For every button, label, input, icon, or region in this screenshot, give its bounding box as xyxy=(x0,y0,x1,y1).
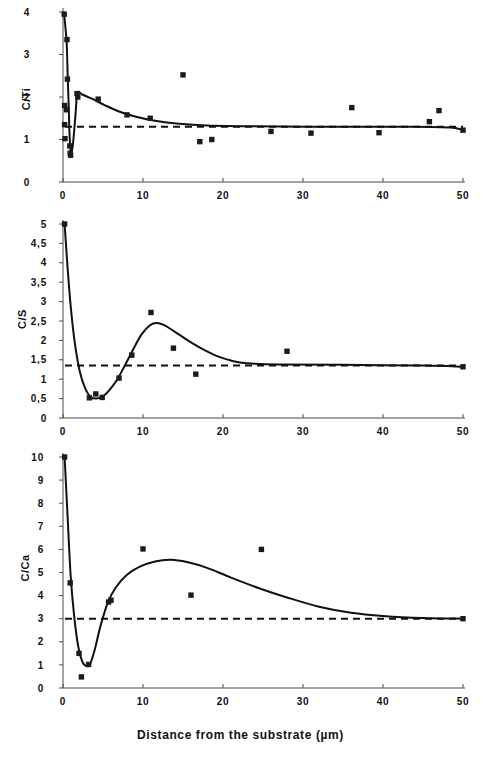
x-tick-label: 40 xyxy=(377,426,390,437)
data-point-marker xyxy=(460,616,465,621)
y-axis-title: C/Ca xyxy=(19,554,31,581)
data-point-marker xyxy=(171,345,176,350)
data-point-marker xyxy=(188,592,193,597)
data-point-marker xyxy=(62,454,67,459)
y-tick-label: 3 xyxy=(24,49,30,60)
data-point-marker xyxy=(197,139,202,144)
y-tick-label: 4 xyxy=(41,257,47,268)
chart-panel-c-ti: 0123401020304050C/Ti xyxy=(0,0,481,215)
x-tick-label: 40 xyxy=(377,696,390,707)
x-tick-label: 20 xyxy=(217,696,230,707)
x-tick-label: 10 xyxy=(137,696,150,707)
data-point-marker xyxy=(62,136,67,141)
y-tick-label: 3 xyxy=(38,613,44,624)
fit-curve xyxy=(64,13,463,153)
y-tick-label: 2 xyxy=(38,636,44,647)
y-tick-label: 5 xyxy=(38,567,44,578)
data-point-marker xyxy=(75,94,80,99)
y-tick-label: 7 xyxy=(38,521,44,532)
y-tick-label: 1 xyxy=(41,374,47,385)
y-tick-label: 0 xyxy=(41,413,47,424)
y-axis-title: C/S xyxy=(16,309,28,329)
y-tick-label: 9 xyxy=(38,475,44,486)
data-point-marker xyxy=(140,546,145,551)
y-tick-label: 6 xyxy=(38,544,44,555)
data-point-marker xyxy=(68,580,73,585)
x-axis-caption: Distance from the substrate (µm) xyxy=(0,728,481,742)
x-tick-label: 10 xyxy=(137,190,150,201)
y-tick-label: 4,5 xyxy=(31,238,47,249)
data-point-marker xyxy=(93,391,98,396)
data-point-marker xyxy=(108,598,113,603)
data-point-marker xyxy=(96,96,101,101)
data-point-marker xyxy=(376,130,381,135)
data-point-marker xyxy=(67,143,72,148)
y-tick-label: 1 xyxy=(24,134,30,145)
chart-svg-c-s: 00,511,522,533,544,5501020304050C/S xyxy=(0,215,481,443)
data-point-marker xyxy=(86,662,91,667)
x-tick-label: 50 xyxy=(457,190,470,201)
data-point-marker xyxy=(308,130,313,135)
data-point-marker xyxy=(427,119,432,124)
data-point-marker xyxy=(65,76,70,81)
x-tick-label: 0 xyxy=(60,426,66,437)
y-tick-label: 0 xyxy=(38,683,44,694)
data-point-marker xyxy=(209,137,214,142)
data-point-marker xyxy=(64,107,69,112)
y-tick-label: 5 xyxy=(41,219,47,230)
data-point-marker xyxy=(284,349,289,354)
y-tick-label: 2,5 xyxy=(31,316,47,327)
data-point-marker xyxy=(62,221,67,226)
fit-curve xyxy=(65,457,463,666)
data-point-marker xyxy=(148,116,153,121)
x-tick-label: 20 xyxy=(217,190,230,201)
x-tick-label: 30 xyxy=(297,190,310,201)
data-point-marker xyxy=(349,105,354,110)
x-tick-label: 40 xyxy=(377,190,390,201)
x-tick-label: 10 xyxy=(137,426,150,437)
y-tick-label: 3,5 xyxy=(31,277,47,288)
y-tick-label: 0,5 xyxy=(31,393,47,404)
y-tick-label: 4 xyxy=(38,590,44,601)
data-point-marker xyxy=(76,651,81,656)
data-point-marker xyxy=(460,127,465,132)
data-point-marker xyxy=(268,129,273,134)
fit-curve xyxy=(65,224,463,399)
y-tick-label: 1 xyxy=(38,660,44,671)
data-point-marker xyxy=(460,364,465,369)
data-point-marker xyxy=(436,108,441,113)
y-tick-label: 3 xyxy=(41,296,47,307)
y-tick-label: 1,5 xyxy=(31,354,47,365)
x-tick-label: 20 xyxy=(217,426,230,437)
x-tick-label: 50 xyxy=(457,696,470,707)
data-point-marker xyxy=(116,375,121,380)
y-axis-title: C/Ti xyxy=(20,88,32,111)
data-point-marker xyxy=(259,547,264,552)
data-point-marker xyxy=(129,352,134,357)
chart-panel-c-s: 00,511,522,533,544,5501020304050C/S xyxy=(0,215,481,443)
y-tick-label: 0 xyxy=(24,177,30,188)
chart-panel-c-ca: 01234567891001020304050C/Ca xyxy=(0,443,481,715)
data-point-marker xyxy=(64,37,69,42)
data-point-marker xyxy=(62,11,67,16)
data-point-marker xyxy=(68,153,73,158)
data-point-marker xyxy=(62,122,67,127)
data-point-marker xyxy=(79,674,84,679)
x-tick-label: 30 xyxy=(297,426,310,437)
x-tick-label: 0 xyxy=(60,696,66,707)
y-tick-label: 10 xyxy=(31,452,44,463)
data-point-marker xyxy=(100,395,105,400)
chart-svg-c-ti: 0123401020304050C/Ti xyxy=(0,0,481,215)
x-tick-label: 50 xyxy=(457,426,470,437)
y-tick-label: 2 xyxy=(41,335,47,346)
data-point-marker xyxy=(124,112,129,117)
figure-root: 0123401020304050C/Ti 00,511,522,533,544,… xyxy=(0,0,481,757)
y-tick-label: 4 xyxy=(24,7,30,18)
y-tick-label: 8 xyxy=(38,498,44,509)
data-point-marker xyxy=(87,395,92,400)
data-point-marker xyxy=(193,371,198,376)
x-tick-label: 0 xyxy=(60,190,66,201)
data-point-marker xyxy=(148,310,153,315)
data-point-marker xyxy=(180,72,185,77)
chart-svg-c-ca: 01234567891001020304050C/Ca xyxy=(0,443,481,715)
